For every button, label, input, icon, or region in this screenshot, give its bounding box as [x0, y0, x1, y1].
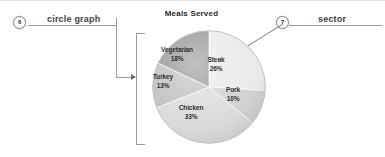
- pie-label-vegetarian-name: Vegetarian: [161, 46, 193, 53]
- pie-label-steak-value: 26%: [196, 65, 236, 74]
- pie-label-turkey: Turkey 13%: [143, 73, 183, 91]
- pie-bracket-arm-bottom: [136, 144, 145, 145]
- pie-label-chicken-value: 33%: [168, 113, 214, 122]
- pie-bracket-spine: [136, 33, 137, 145]
- pie-label-chicken-name: Chicken: [179, 104, 204, 111]
- pie-label-turkey-value: 13%: [143, 82, 183, 91]
- chart-title: Meals Served: [0, 9, 385, 18]
- chart-title-text: Meals Served: [165, 9, 219, 18]
- pie-label-pork-value: 10%: [213, 95, 253, 104]
- pie-label-chicken: Chicken 33%: [168, 104, 214, 122]
- callout-underline-right: [289, 25, 382, 26]
- pie-label-steak-name: Steak: [208, 56, 225, 63]
- pie-label-vegetarian: Vegetarian 18%: [150, 46, 204, 64]
- pie-label-pork-name: Pork: [226, 86, 240, 93]
- callout-leader-vertical-left: [116, 18, 117, 77]
- callout-underline-left: [28, 25, 116, 26]
- pie-label-pork: Pork 10%: [213, 86, 253, 104]
- pie-label-turkey-name: Turkey: [153, 73, 173, 80]
- figure-canvas: 6 circle graph 7 sector Meals Served: [0, 0, 385, 157]
- pie-label-vegetarian-value: 18%: [150, 55, 204, 64]
- top-divider: [0, 0, 385, 1]
- pie-bracket-arm-top: [136, 33, 145, 34]
